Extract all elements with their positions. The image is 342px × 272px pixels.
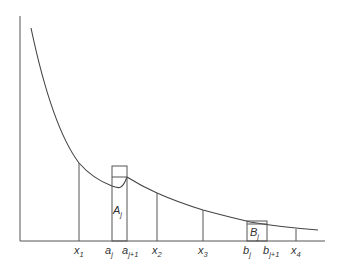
decreasing-curve <box>31 28 318 230</box>
tick-label-a-j-plus-1: aj+1 <box>122 244 138 259</box>
tick-label-x4: x4 <box>290 244 301 259</box>
tick-label-b-j-plus-1: bj+1 <box>263 244 279 259</box>
diagram-canvas: Aj Bj x1 aj aj+1 x2 x3 bj bj+1 x4 <box>0 0 342 272</box>
tick-label-a-j: aj <box>105 244 113 259</box>
label-b-j: Bj <box>250 226 259 241</box>
tick-label-b-j: bj <box>243 244 251 259</box>
tick-label-x2: x2 <box>151 244 163 259</box>
tick-label-x3: x3 <box>197 244 209 259</box>
label-a-j: Aj <box>112 204 122 219</box>
tick-label-x1: x1 <box>73 244 84 259</box>
